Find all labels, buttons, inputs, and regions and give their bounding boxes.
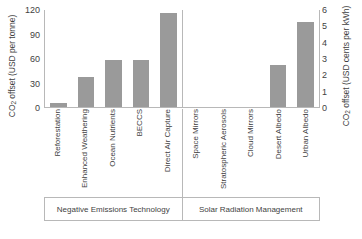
bar-slot-cloud-mirrors bbox=[237, 10, 264, 107]
plot-area bbox=[44, 10, 320, 108]
bar-slot-direct-air-capture bbox=[155, 10, 182, 107]
category-slot-cloud-mirrors: Cloud Mirrors bbox=[238, 109, 266, 197]
category-labels-solar-radiation-management: Space MirrorsStratospheric AerosolsCloud… bbox=[182, 109, 321, 197]
y-axis-right-tick-3: 3 bbox=[322, 55, 327, 64]
category-slot-desert-albedo: Desert Albedo bbox=[265, 109, 293, 197]
bar-reforestation[interactable] bbox=[50, 103, 66, 107]
y-axis-right-tick-6: 6 bbox=[322, 6, 327, 15]
category-label-ocean-nutrients: Ocean Nutrients bbox=[109, 109, 117, 167]
category-slot-urban-albedo: Urban Albedo bbox=[293, 109, 321, 197]
y-axis-right-title-prefix: CO bbox=[341, 114, 351, 127]
category-slot-direct-air-capture: Direct Air Capture bbox=[154, 109, 182, 197]
category-slot-ocean-nutrients: Ocean Nutrients bbox=[99, 109, 127, 197]
group-label-negative-emissions-technology: Negative Emissions Technology bbox=[45, 198, 182, 220]
bar-chart: CO2 offset (USD per tonne) CO2 offset (U… bbox=[0, 0, 362, 239]
x-axis-group-labels: Negative Emissions Technology Solar Radi… bbox=[44, 197, 320, 221]
category-slot-beccs: BECCS bbox=[127, 109, 155, 197]
y-axis-right-title-subscript: 2 bbox=[344, 110, 351, 114]
bar-slot-space-mirrors bbox=[183, 10, 210, 107]
y-axis-left-title-subscript: 2 bbox=[10, 101, 17, 105]
category-label-space-mirrors: Space Mirrors bbox=[192, 109, 200, 159]
bar-enhanced-weathering[interactable] bbox=[78, 77, 94, 107]
category-label-enhanced-weathering: Enhanced Weathering bbox=[81, 109, 89, 188]
category-slot-stratospheric-aerosols: Stratospheric Aerosols bbox=[210, 109, 238, 197]
y-axis-right-tick-1: 1 bbox=[322, 87, 327, 96]
category-slot-reforestation: Reforestation bbox=[44, 109, 72, 197]
category-slot-enhanced-weathering: Enhanced Weathering bbox=[72, 109, 100, 197]
bar-direct-air-capture[interactable] bbox=[160, 13, 176, 107]
category-labels-negative-emissions-technology: ReforestationEnhanced WeatheringOcean Nu… bbox=[44, 109, 182, 197]
y-axis-left-title-rest: offset (USD per tonne) bbox=[7, 15, 17, 101]
category-label-cloud-mirrors: Cloud Mirrors bbox=[247, 109, 255, 157]
y-axis-right-tick-5: 5 bbox=[322, 22, 327, 31]
y-axis-left-title: CO2 offset (USD per tonne) bbox=[7, 4, 17, 128]
y-axis-left-ticks: 0306090120 bbox=[18, 10, 40, 108]
y-axis-right-tick-0: 0 bbox=[322, 104, 327, 113]
bar-urban-albedo[interactable] bbox=[297, 22, 313, 107]
category-slot-space-mirrors: Space Mirrors bbox=[183, 109, 211, 197]
bar-slot-urban-albedo bbox=[292, 10, 319, 107]
y-axis-left-tick-120: 120 bbox=[25, 6, 40, 15]
y-axis-left-tick-0: 0 bbox=[35, 104, 40, 113]
bar-slot-enhanced-weathering bbox=[72, 10, 99, 107]
bar-slot-desert-albedo bbox=[265, 10, 292, 107]
y-axis-left-tick-60: 60 bbox=[30, 55, 40, 64]
category-label-reforestation: Reforestation bbox=[54, 109, 62, 157]
bar-desert-albedo[interactable] bbox=[270, 65, 286, 107]
x-axis-category-labels: ReforestationEnhanced WeatheringOcean Nu… bbox=[44, 109, 320, 197]
bar-beccs[interactable] bbox=[133, 60, 149, 107]
bar-group-negative-emissions-technology bbox=[45, 10, 182, 107]
bar-slot-stratospheric-aerosols bbox=[210, 10, 237, 107]
category-label-desert-albedo: Desert Albedo bbox=[275, 109, 283, 159]
bar-slot-ocean-nutrients bbox=[100, 10, 127, 107]
category-label-direct-air-capture: Direct Air Capture bbox=[164, 109, 172, 172]
y-axis-left-title-prefix: CO bbox=[7, 105, 17, 118]
bar-slot-beccs bbox=[127, 10, 154, 107]
bar-slot-reforestation bbox=[45, 10, 72, 107]
y-axis-right-tick-4: 4 bbox=[322, 38, 327, 47]
y-axis-right-ticks: 0123456 bbox=[322, 10, 344, 108]
y-axis-left-tick-90: 90 bbox=[30, 30, 40, 39]
y-axis-right-tick-2: 2 bbox=[322, 71, 327, 80]
category-label-urban-albedo: Urban Albedo bbox=[302, 109, 310, 157]
group-label-solar-radiation-management: Solar Radiation Management bbox=[182, 198, 320, 220]
bar-group-solar-radiation-management bbox=[182, 10, 319, 107]
category-label-stratospheric-aerosols: Stratospheric Aerosols bbox=[220, 109, 228, 189]
category-label-beccs: BECCS bbox=[136, 109, 144, 137]
y-axis-left-tick-30: 30 bbox=[30, 79, 40, 88]
bar-ocean-nutrients[interactable] bbox=[105, 60, 121, 107]
